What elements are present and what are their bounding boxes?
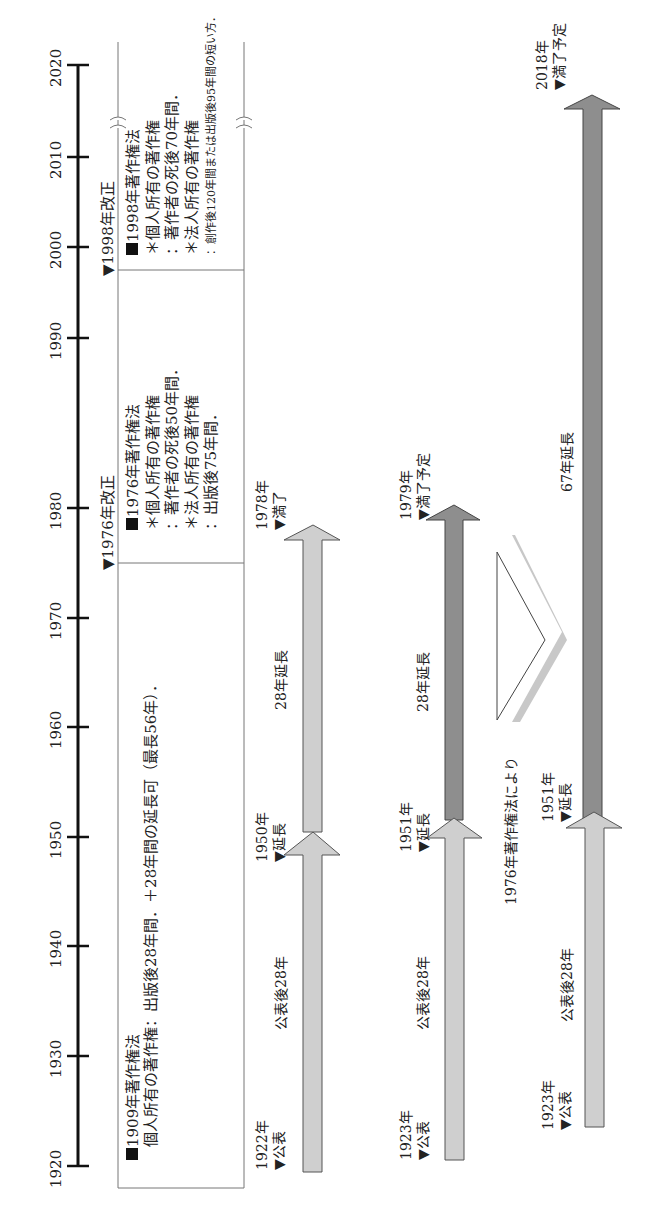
law-box-1998: 1998年著作権法 ＊個人所有の著作権 ：著作者の死後70年間． ＊法人所有の著…: [124, 11, 222, 255]
row2-second-span: 28年延長: [412, 652, 432, 712]
row2-middle-event: ▼延長: [415, 802, 432, 852]
law-title-1909: 1909年著作権法: [124, 1034, 142, 1147]
square-bullet-icon: [126, 243, 138, 255]
row3-middle-event: ▼延長: [557, 772, 574, 822]
law-line: ：著作者の死後70年間．: [163, 11, 183, 255]
revision-1998: ▼1998年改正: [96, 181, 117, 276]
transition-label: 1976年著作権法により: [500, 757, 520, 905]
transition-chevron: [497, 535, 567, 722]
row1-start: 1922年 ▼公表: [254, 1120, 288, 1170]
law-title-1976: 1976年著作権法: [124, 404, 142, 517]
row2-start-event: ▼公表: [415, 1110, 432, 1160]
row1-first-span: 公表後28年: [270, 956, 290, 1030]
row1-middle-year: 1950年: [254, 812, 271, 862]
row2-end-event: ▼満了予定: [415, 453, 432, 520]
tick-label-1980: 1980: [47, 492, 65, 530]
row3-start: 1923年 ▼公表: [540, 1080, 574, 1130]
row3-end-year: 2018年: [534, 23, 551, 90]
tick-label-2000: 2000: [47, 231, 65, 269]
square-bullet-icon: [126, 518, 138, 530]
tick-label-2020: 2020: [47, 49, 65, 87]
row3-end-event: ▼満了予定: [551, 23, 568, 90]
tick-label-1930: 1930: [47, 1040, 65, 1078]
row1-second-span: 28年延長: [270, 650, 290, 710]
law-line: ：出版後75年間．: [202, 361, 222, 530]
law-title-1998: 1998年著作権法: [124, 129, 142, 242]
row1-start-year: 1922年: [254, 1120, 271, 1170]
law-box-1909: 1909年著作権法 個人所有の著作権：出版後28年間．＋28年間の延長可（最長5…: [124, 677, 160, 1160]
tick-label-1990: 1990: [47, 322, 65, 360]
law-line: ＊法人所有の著作権: [183, 361, 203, 530]
law-line: ：著作者の死後50年間．: [163, 361, 183, 530]
law-line: ＊個人所有の著作権: [144, 11, 164, 255]
tick-label-1940: 1940: [47, 930, 65, 968]
revision-1976: ▼1976年改正: [96, 475, 117, 570]
row1-end: 1978年 ▼満了: [254, 480, 288, 530]
law-line: ＊法人所有の著作権: [183, 11, 203, 255]
row2-end-year: 1979年: [398, 453, 415, 520]
row2-start: 1923年 ▼公表: [398, 1110, 432, 1160]
row1-middle-event: ▼延長: [271, 812, 288, 862]
law-box-1976: 1976年著作権法 ＊個人所有の著作権 ：著作者の死後50年間． ＊法人所有の著…: [124, 361, 222, 530]
row2-first-span: 公表後28年: [412, 956, 432, 1030]
row3-middle-year: 1951年: [540, 772, 557, 822]
row2-middle-year: 1951年: [398, 802, 415, 852]
row2-start-year: 1923年: [398, 1110, 415, 1160]
tick-label-2010: 2010: [47, 141, 65, 179]
row2-arrows: [426, 505, 482, 1160]
row3-start-event: ▼公表: [557, 1080, 574, 1130]
square-bullet-icon: [126, 1148, 138, 1160]
law-line: ：創作後120年間または出版後95年間の短い方．: [202, 11, 222, 255]
row2-end: 1979年 ▼満了予定: [398, 453, 432, 520]
timeline-axis: [67, 65, 89, 1166]
law-line-1909: 個人所有の著作権：出版後28年間．＋28年間の延長可（最長56年）．: [142, 677, 160, 1160]
row2-middle: 1951年 ▼延長: [398, 802, 432, 852]
tick-label-1920: 1920: [47, 1150, 65, 1188]
tick-label-1950: 1950: [47, 821, 65, 859]
row3-start-year: 1923年: [540, 1080, 557, 1130]
row3-end: 2018年 ▼満了予定: [534, 23, 568, 90]
row1-end-event: ▼満了: [271, 480, 288, 530]
law-line: ＊個人所有の著作権: [144, 361, 164, 530]
row1-arrows: [284, 525, 340, 1172]
tick-label-1960: 1960: [47, 711, 65, 749]
tick-label-1970: 1970: [47, 602, 65, 640]
row3-middle: 1951年 ▼延長: [540, 772, 574, 822]
row1-end-year: 1978年: [254, 480, 271, 530]
row1-middle: 1950年 ▼延長: [254, 812, 288, 862]
row3-second-span: 67年延長: [556, 432, 576, 492]
row3-first-span: 公表後28年: [556, 948, 576, 1022]
row1-start-event: ▼公表: [271, 1120, 288, 1170]
